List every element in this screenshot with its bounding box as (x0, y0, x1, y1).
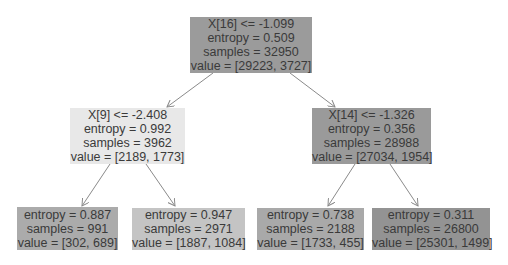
leaf-node: entropy = 0.311 samples = 26800 value = … (372, 208, 490, 250)
leaf-node: entropy = 0.887 samples = 991 value = [3… (17, 207, 118, 250)
entropy-label: entropy = 0.356 (312, 122, 431, 136)
value-label: value = [1733, 455] (257, 236, 364, 250)
samples-label: samples = 2188 (257, 222, 364, 236)
value-label: value = [27034, 1954] (312, 150, 431, 164)
samples-label: samples = 26800 (372, 222, 490, 236)
split-condition: X[14] <= -1.326 (312, 108, 431, 122)
edge-arrow-icon (328, 164, 355, 206)
value-label: value = [2189, 1773] (70, 150, 185, 164)
value-label: value = [25301, 1499] (372, 236, 490, 250)
entropy-label: entropy = 0.738 (257, 208, 364, 222)
edge-arrow-icon (167, 73, 213, 107)
entropy-label: entropy = 0.509 (190, 31, 312, 45)
split-condition: X[16] <= -1.099 (190, 17, 312, 31)
edge-arrow-icon (390, 164, 418, 206)
leaf-node: entropy = 0.738 samples = 2188 value = [… (257, 208, 364, 250)
samples-label: samples = 2971 (132, 222, 245, 236)
value-label: value = [1887, 1084] (132, 236, 245, 250)
leaf-node: entropy = 0.947 samples = 2971 value = [… (132, 208, 245, 250)
edge-arrow-icon (82, 164, 110, 206)
edge-arrow-icon (146, 164, 175, 206)
samples-label: samples = 3962 (70, 136, 185, 150)
entropy-label: entropy = 0.947 (132, 208, 245, 222)
split-condition: X[9] <= -2.408 (70, 108, 185, 122)
value-label: value = [302, 689] (17, 236, 118, 250)
right-split-node: X[14] <= -1.326 entropy = 0.356 samples … (312, 108, 431, 164)
samples-label: samples = 32950 (190, 45, 312, 59)
root-split-node: X[16] <= -1.099 entropy = 0.509 samples … (190, 17, 312, 73)
value-label: value = [29223, 3727] (190, 59, 312, 73)
entropy-label: entropy = 0.311 (372, 208, 490, 222)
entropy-label: entropy = 0.887 (17, 208, 118, 222)
samples-label: samples = 991 (17, 222, 118, 236)
entropy-label: entropy = 0.992 (70, 122, 185, 136)
edge-arrow-icon (290, 73, 335, 107)
left-split-node: X[9] <= -2.408 entropy = 0.992 samples =… (70, 108, 185, 164)
samples-label: samples = 28988 (312, 136, 431, 150)
